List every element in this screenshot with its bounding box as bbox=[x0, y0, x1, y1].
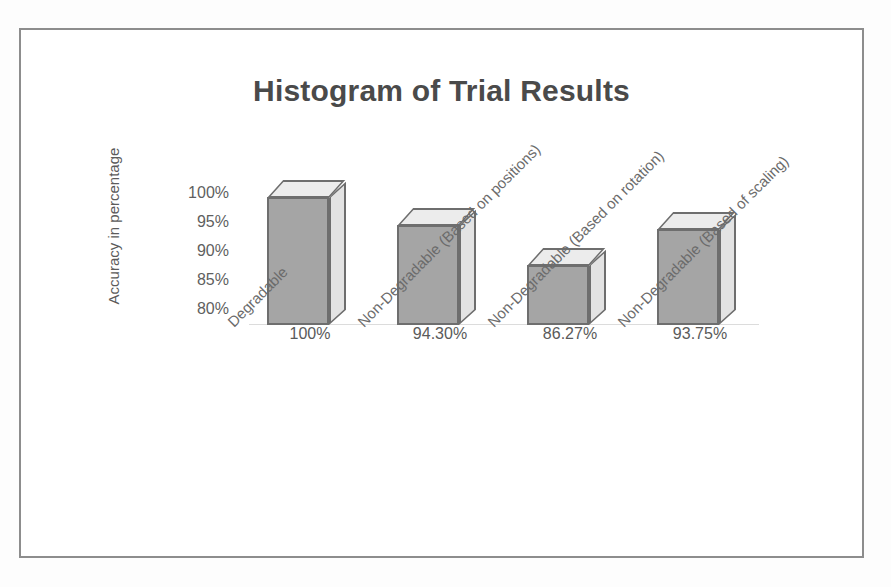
bar-front-face bbox=[267, 197, 329, 325]
y-tick-label: 80% bbox=[161, 294, 229, 323]
y-tick-label: 95% bbox=[161, 207, 229, 236]
screenshot-root: Histogram of Trial Results Accuracy in p… bbox=[0, 0, 891, 587]
y-axis-tick-labels: 100% 95% 90% 85% 80% bbox=[161, 178, 229, 323]
y-tick-label: 90% bbox=[161, 236, 229, 265]
bar-side-face bbox=[329, 182, 346, 325]
y-axis-title: Accuracy in percentage bbox=[105, 126, 125, 326]
bar-value-label: 93.75% bbox=[644, 325, 756, 343]
bar[interactable] bbox=[267, 197, 331, 325]
bar-value-label: 86.27% bbox=[514, 325, 626, 343]
chart-title: Histogram of Trial Results bbox=[21, 74, 862, 108]
y-tick-label: 85% bbox=[161, 265, 229, 294]
plot-area: 100% 94.30% 86.27% bbox=[249, 140, 749, 325]
y-tick-label: 100% bbox=[161, 178, 229, 207]
bar-value-label: 100% bbox=[254, 325, 366, 343]
bar-value-label: 94.30% bbox=[384, 325, 496, 343]
chart-frame: Histogram of Trial Results Accuracy in p… bbox=[19, 28, 864, 558]
